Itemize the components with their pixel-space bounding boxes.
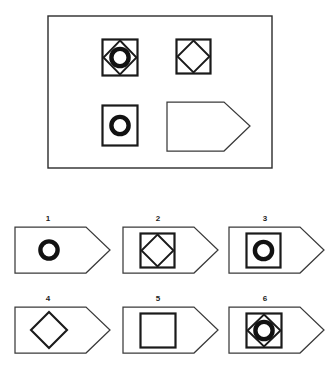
cell-r1c1 bbox=[103, 40, 138, 76]
option-5-hit-area[interactable] bbox=[122, 306, 219, 354]
problem-matrix-group bbox=[48, 16, 272, 168]
answer-slot-pentagon-tag bbox=[167, 102, 250, 151]
cell-r2c1 bbox=[103, 106, 138, 146]
cell-r1c2-square bbox=[177, 40, 211, 74]
problem-frame-rectangle bbox=[48, 16, 272, 168]
option-4-number: 4 bbox=[41, 295, 55, 303]
option-6-number: 6 bbox=[258, 295, 272, 303]
option-3-hit-area[interactable] bbox=[228, 226, 325, 274]
option-1-number: 1 bbox=[41, 215, 55, 223]
option-2-number: 2 bbox=[151, 215, 165, 223]
option-1-hit-area[interactable] bbox=[14, 226, 111, 274]
matrix-reasoning-item: 1 2 3 4 5 6 bbox=[0, 0, 327, 372]
cell-r1c2 bbox=[177, 40, 211, 74]
cell-r1c1-square bbox=[103, 40, 138, 76]
option-2-hit-area[interactable] bbox=[122, 226, 219, 274]
option-3-number: 3 bbox=[258, 215, 272, 223]
option-6-hit-area[interactable] bbox=[228, 306, 325, 354]
option-5-number: 5 bbox=[151, 295, 165, 303]
cell-r2c1-square bbox=[103, 106, 138, 146]
option-4-hit-area[interactable] bbox=[14, 306, 111, 354]
cell-r2c2-answer-slot bbox=[167, 102, 250, 151]
